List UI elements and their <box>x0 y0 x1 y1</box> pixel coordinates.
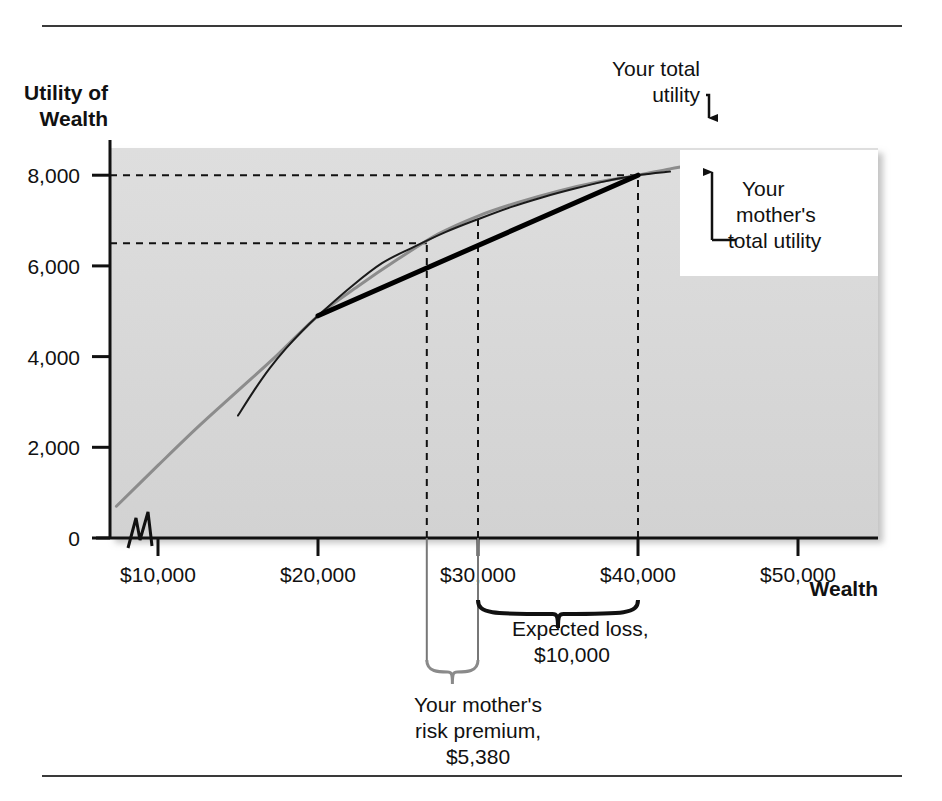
expected-loss-line1: Expected loss, <box>512 617 649 640</box>
y-tick-label-1: 2,000 <box>27 436 80 459</box>
x-tick-label-0: $10,000 <box>120 563 196 586</box>
y-axis-title-line1: Utility of <box>24 81 109 104</box>
your-total-utility-annotation: Your total utility <box>612 57 720 120</box>
risk-premium-annotation: Your mother's risk premium, $5,380 <box>414 660 542 768</box>
x-axis-title: Wealth <box>810 577 878 600</box>
y-tick-label-3: 6,000 <box>27 255 80 278</box>
y-tick-label-2: 4,000 <box>27 346 80 369</box>
your-total-utility-line2: utility <box>652 83 700 106</box>
your-total-utility-line1: Your total <box>612 57 700 80</box>
mothers-total-utility-line1: Your <box>742 177 784 200</box>
mothers-total-utility-line3: total utility <box>728 229 822 252</box>
figure-container: 02,0004,0006,0008,000$10,000$20,000$30,0… <box>0 0 942 801</box>
expected-loss-annotation: Expected loss, $10,000 <box>478 600 649 666</box>
utility-of-wealth-chart: 02,0004,0006,0008,000$10,000$20,000$30,0… <box>0 0 942 801</box>
your-total-utility-arrow <box>706 95 709 118</box>
risk-premium-line3: $5,380 <box>446 745 510 768</box>
expected-loss-line2: $10,000 <box>534 643 610 666</box>
risk-premium-line1: Your mother's <box>414 693 542 716</box>
x-tick-label-1: $20,000 <box>280 563 356 586</box>
risk-premium-line2: risk premium, <box>415 719 541 742</box>
y-tick-label-4: 8,000 <box>27 164 80 187</box>
mothers-total-utility-line2: mother's <box>736 203 816 226</box>
risk-premium-brace <box>427 660 478 684</box>
y-axis-title-line2: Wealth <box>40 107 108 130</box>
y-tick-label-0: 0 <box>68 527 80 550</box>
x-tick-label-3: $40,000 <box>600 563 676 586</box>
